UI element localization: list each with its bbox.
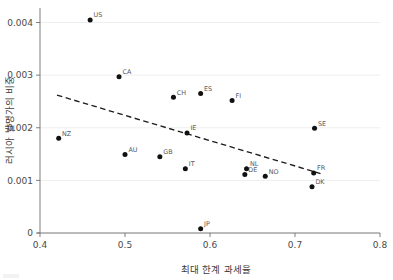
data-point-label: CA bbox=[122, 68, 131, 76]
plot-canvas: 0.40.50.60.70.8 00.0010.0020.0030.004 US… bbox=[0, 0, 393, 280]
data-point bbox=[171, 95, 176, 100]
x-axis-ticks: 0.40.50.60.70.8 bbox=[33, 233, 388, 250]
data-point bbox=[185, 131, 190, 136]
data-point-label: IE bbox=[190, 124, 196, 132]
data-point bbox=[263, 174, 268, 179]
data-point bbox=[312, 126, 317, 131]
data-point bbox=[123, 152, 128, 157]
data-point bbox=[311, 171, 316, 176]
data-point bbox=[88, 17, 93, 22]
data-point bbox=[117, 74, 122, 79]
data-point-label: FR bbox=[317, 164, 326, 172]
data-point bbox=[230, 98, 235, 103]
data-point-label: CH bbox=[177, 89, 186, 97]
data-point-label: FI bbox=[236, 92, 242, 100]
data-point-label: SE bbox=[318, 120, 326, 128]
data-point bbox=[198, 91, 203, 96]
y-axis-title: 러시아 발명가의 비중 bbox=[4, 76, 15, 163]
data-point bbox=[183, 166, 188, 171]
data-point-label: NZ bbox=[62, 130, 72, 138]
gridlines bbox=[40, 23, 380, 233]
y-tick-label: 0.001 bbox=[7, 176, 33, 186]
data-point-label: JP bbox=[203, 220, 210, 228]
data-point-label: DK bbox=[315, 178, 325, 186]
x-tick-label: 0.4 bbox=[33, 240, 48, 250]
data-point bbox=[310, 184, 315, 189]
x-tick-label: 0.6 bbox=[203, 240, 218, 250]
data-point-label: AU bbox=[128, 146, 137, 154]
data-point-label: GB bbox=[163, 148, 172, 156]
data-point bbox=[198, 226, 203, 231]
data-point-label: US bbox=[94, 11, 103, 19]
x-axis-title: 최대 한계 과세율 bbox=[181, 264, 250, 275]
data-point bbox=[157, 154, 162, 159]
y-tick-label: 0 bbox=[27, 228, 33, 238]
data-point-label: ES bbox=[204, 85, 212, 93]
data-point-label: DE bbox=[248, 166, 257, 174]
data-point-label: IT bbox=[189, 160, 195, 168]
scatter-chart-figure: 0.40.50.60.70.8 00.0010.0020.0030.004 US… bbox=[0, 0, 393, 280]
x-tick-label: 0.8 bbox=[373, 240, 388, 250]
axes bbox=[37, 8, 380, 233]
data-point-label: NO bbox=[269, 168, 279, 176]
data-points bbox=[56, 17, 317, 231]
data-point bbox=[242, 172, 247, 177]
data-point bbox=[56, 136, 61, 141]
corner-artifact bbox=[3, 274, 19, 278]
point-labels: USCACHESFISEIENZAUGBITNLDENOFRDKJP bbox=[62, 11, 326, 228]
x-tick-label: 0.7 bbox=[288, 240, 302, 250]
x-tick-label: 0.5 bbox=[118, 240, 132, 250]
y-tick-label: 0.004 bbox=[7, 18, 33, 28]
